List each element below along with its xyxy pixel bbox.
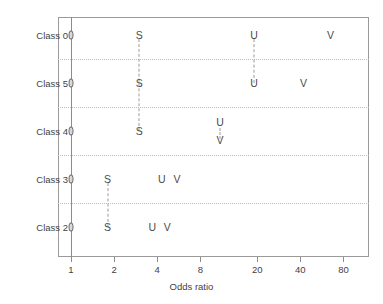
marker-o-class-4	[69, 127, 74, 136]
x-axis-title: Odds ratio	[0, 281, 383, 292]
marker-s-class-5: S	[136, 78, 143, 89]
marker-s-class-4: S	[136, 126, 143, 137]
marker-o-class-5	[69, 79, 74, 88]
x-tick-label-2: 2	[111, 264, 116, 275]
grid-line	[58, 203, 369, 204]
x-tick-label-1: 1	[68, 264, 73, 275]
grid-line	[58, 107, 369, 108]
x-tick-label-40: 40	[295, 264, 306, 275]
marker-o-class-3	[69, 175, 74, 184]
marker-v-class-5: V	[300, 78, 307, 89]
marker-o-class-0	[69, 31, 74, 40]
grid-line	[58, 155, 369, 156]
x-tick-label-4: 4	[155, 264, 160, 275]
x-tick	[200, 257, 201, 262]
x-tick	[157, 257, 158, 262]
x-tick	[71, 257, 72, 262]
category-label-class-3: Class 3	[36, 174, 68, 185]
x-tick	[257, 257, 258, 262]
marker-u-class-5: U	[250, 78, 258, 89]
category-label-class-0: Class 0	[36, 30, 68, 41]
x-tick	[114, 257, 115, 262]
category-label-class-4: Class 4	[36, 126, 68, 137]
odds-ratio-chart: Class 0Class 5Class 4Class 3Class 2 1248…	[0, 0, 383, 304]
marker-v-class-3: V	[173, 174, 180, 185]
x-tick	[343, 257, 344, 262]
reference-line-at-1	[71, 17, 72, 257]
marker-s-class-3: S	[104, 174, 111, 185]
marker-u-class-0: U	[250, 30, 258, 41]
marker-v-class-4: V	[217, 135, 224, 146]
x-tick-label-20: 20	[252, 264, 263, 275]
marker-u-class-4: U	[216, 117, 224, 128]
x-tick	[300, 257, 301, 262]
category-label-class-5: Class 5	[36, 78, 68, 89]
grid-line	[58, 59, 369, 60]
marker-v-class-2: V	[164, 222, 171, 233]
marker-u-class-3: U	[158, 174, 166, 185]
marker-o-class-2	[69, 223, 74, 232]
category-label-class-2: Class 2	[36, 222, 68, 233]
x-tick-label-80: 80	[338, 264, 349, 275]
marker-u-class-2: U	[149, 222, 157, 233]
marker-v-class-0: V	[327, 30, 334, 41]
marker-s-class-2: S	[104, 222, 111, 233]
x-tick-label-8: 8	[198, 264, 203, 275]
marker-s-class-0: S	[136, 30, 143, 41]
